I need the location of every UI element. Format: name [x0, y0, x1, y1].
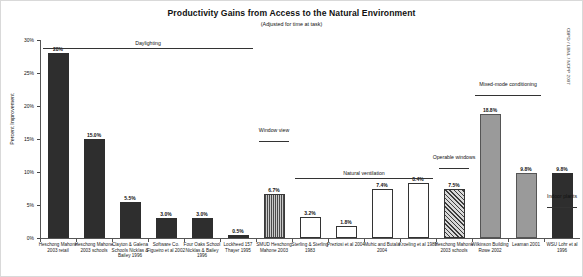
group-label: Daylighting [108, 40, 188, 46]
bar [84, 139, 105, 238]
y-tick-label: 25% [12, 70, 34, 76]
y-tick-label: 5% [12, 202, 34, 208]
y-tick-label: 0% [12, 235, 34, 241]
bar-value-label: 3.0% [182, 211, 222, 217]
y-axis-label: Percent Improvement [9, 84, 15, 154]
bar [480, 114, 501, 238]
chart-title: Productivity Gains from Access to the Na… [0, 8, 583, 18]
group-bracket-line [439, 168, 469, 169]
credit-text: CBPD / LBNL / NCPP 2007 [566, 28, 571, 85]
x-category-label: Heschong Mahone 2003 schools [434, 242, 474, 253]
bar [408, 183, 429, 238]
x-category-label: Leaman 2001 [506, 242, 546, 248]
bar-value-label: 9.8% [506, 166, 546, 172]
x-category-label: Clayton & Galena Schools Nicklas & Baile… [110, 242, 150, 259]
x-category-label: Heschong Mahone 2003 retail [38, 242, 78, 253]
chart-page: Productivity Gains from Access to the Na… [0, 0, 583, 277]
group-bracket-line [475, 95, 541, 96]
group-label: Operable windows [414, 154, 494, 160]
bar-value-label: 0.5% [218, 228, 258, 234]
x-axis-line [40, 238, 580, 239]
bar-value-label: 5.5% [110, 195, 150, 201]
y-tick-label: 30% [12, 37, 34, 43]
chart-subtitle: (Adjusted for time at task) [0, 21, 583, 27]
bar-value-label: 9.8% [542, 166, 582, 172]
group-bracket-line [43, 48, 253, 49]
bar-value-label: 15.0% [74, 132, 114, 138]
x-category-label: Kroeling et al 1989 [398, 242, 438, 248]
bar-value-label: 6.7% [254, 187, 294, 193]
x-category-label: Wilkinson Building Rowe 2002 [470, 242, 510, 253]
x-category-label: Muhic and Butala 2004 [362, 242, 402, 253]
x-category-label: SMUD Heschong Mahone 2003 [254, 242, 294, 253]
y-tick-label: 15% [12, 136, 34, 142]
group-bracket-line [295, 178, 433, 179]
bar-value-label: 1.8% [326, 219, 366, 225]
group-bracket-line [259, 141, 289, 142]
x-category-label: Preziosi et al 2004 [326, 242, 366, 248]
x-category-label: WSU Lohr et al 1996 [542, 242, 582, 253]
group-label: Natural ventilation [324, 170, 404, 176]
y-tick-label: 10% [12, 169, 34, 175]
x-category-label: Sterling & Sterling 1983 [290, 242, 330, 253]
bar [120, 202, 141, 238]
y-axis-line [40, 40, 41, 239]
group-label: Indoor plants [522, 193, 583, 199]
x-category-label: Software Co. Figueiro et al 2002 [146, 242, 186, 253]
y-tick-label: 20% [12, 103, 34, 109]
bar [192, 218, 213, 238]
bar [264, 194, 285, 238]
bar-value-label: 7.5% [434, 182, 474, 188]
bar [228, 235, 249, 238]
group-label: Window view [234, 127, 314, 133]
bar [300, 217, 321, 238]
bar [48, 53, 69, 238]
bar [156, 218, 177, 238]
bar-value-label: 7.4% [362, 182, 402, 188]
group-bracket-line [547, 207, 577, 208]
bar-value-label: 3.2% [290, 210, 330, 216]
bar [516, 173, 537, 238]
x-category-label: Heschong Mahone 2003 schools [74, 242, 114, 253]
x-category-label: Four Oaks School Nicklas & Bailey 1996 [182, 242, 222, 259]
bar [336, 226, 357, 238]
bar [444, 189, 465, 239]
group-label: Mixed-mode conditioning [468, 81, 548, 87]
bar [372, 189, 393, 238]
bar-value-label: 18.8% [470, 107, 510, 113]
bar [552, 173, 573, 238]
bar-value-label: 3.0% [146, 211, 186, 217]
x-category-label: Lockheed 157 Thayer 1995 [218, 242, 258, 253]
